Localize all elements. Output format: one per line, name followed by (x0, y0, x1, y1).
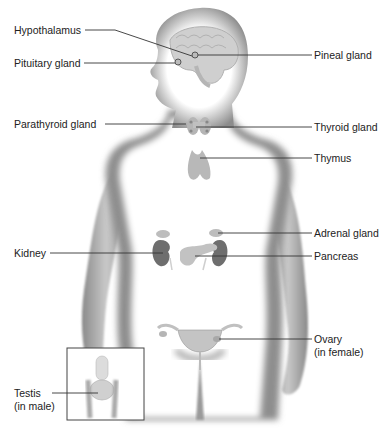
endocrine-diagram: Hypothalamus Pituitary gland Pineal glan… (0, 0, 392, 429)
pineal-marker (192, 52, 198, 58)
label-kidney: Kidney (14, 247, 46, 259)
label-ovary: Ovary (314, 333, 342, 345)
label-parathyroid-gland: Parathyroid gland (14, 118, 96, 130)
label-testis: Testis (14, 387, 41, 399)
label-thymus: Thymus (314, 152, 351, 164)
testis-inset (67, 348, 144, 420)
label-ovary-note: (in female) (314, 346, 364, 358)
label-thyroid-gland: Thyroid gland (314, 121, 378, 133)
pituitary-marker (175, 59, 181, 65)
head (150, 8, 248, 128)
label-testis-note: (in male) (14, 400, 55, 412)
label-pituitary-gland: Pituitary gland (14, 57, 81, 69)
label-hypothalamus: Hypothalamus (14, 24, 81, 36)
label-pineal-gland: Pineal gland (314, 49, 372, 61)
label-adrenal-gland: Adrenal gland (314, 227, 379, 239)
label-pancreas: Pancreas (314, 250, 358, 262)
